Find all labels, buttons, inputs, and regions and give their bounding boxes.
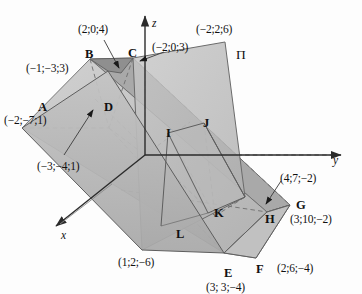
- vertex-label-J: J: [203, 117, 209, 130]
- vertex-label-F: F: [256, 263, 264, 276]
- coord-top-arrow: (2;0;4): [78, 24, 108, 36]
- coord-B: (−1;−3;3): [26, 63, 68, 75]
- vertex-label-B: B: [85, 48, 93, 61]
- axis-label-x: x: [61, 230, 66, 242]
- vertex-label-D: D: [104, 101, 113, 114]
- axis-label-z: z: [152, 18, 156, 30]
- coord-H: (4;7;−2): [280, 173, 316, 185]
- vertex-label-I: I: [166, 127, 171, 140]
- vertex-label-C: C: [128, 47, 137, 60]
- plane-label-pi: П: [236, 48, 246, 62]
- vertex-label-E: E: [224, 267, 232, 280]
- vertex-label-A: A: [38, 101, 47, 114]
- vertex-label-L: L: [176, 228, 184, 241]
- coord-D: (−3;−4;1): [37, 161, 79, 173]
- vertex-label-K: K: [214, 207, 224, 220]
- vertex-label-G: G: [296, 199, 306, 212]
- coord-C: (−2;0;3): [152, 42, 188, 54]
- coord-bottom-left: (1;2;−6): [118, 257, 154, 269]
- coord-plane-top: (−2;2;6): [196, 24, 232, 36]
- diagram-canvas: A B C D E F G H I J K L (−2;−7;1) (−1;−3…: [0, 0, 362, 294]
- coord-G: (3;10;−2): [290, 214, 332, 226]
- coord-E: (3; 3;−4): [206, 282, 245, 294]
- coord-A: (−2;−7;1): [4, 115, 46, 127]
- axis-label-y: y: [333, 155, 338, 167]
- vertex-label-H: H: [265, 213, 275, 226]
- coord-F: (2;6;−4): [277, 263, 313, 275]
